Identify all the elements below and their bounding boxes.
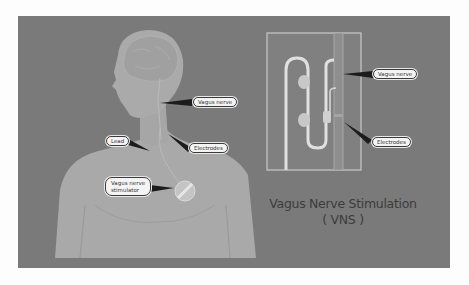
- label-stimulator-line2: stimulator: [111, 187, 145, 194]
- diagram-title: Vagus Nerve Stimulation ( VNS ): [258, 196, 428, 228]
- title-abbreviation: ( VNS ): [258, 212, 428, 228]
- label-lead: Lead: [106, 136, 129, 146]
- label-vagus-nerve-stimulator: Vagus nerve stimulator: [105, 177, 151, 196]
- label-vagus-nerve: Vagus nerve: [193, 97, 237, 107]
- electrode-inset: [267, 33, 373, 170]
- label-stimulator-line1: Vagus nerve: [111, 180, 145, 187]
- title-main: Vagus Nerve Stimulation: [258, 196, 428, 212]
- inset-label-electrodes: Electrodes: [372, 137, 411, 147]
- label-electrodes: Electrodes: [189, 143, 228, 153]
- inset-label-vagus-nerve: Vagus nerve: [373, 69, 417, 79]
